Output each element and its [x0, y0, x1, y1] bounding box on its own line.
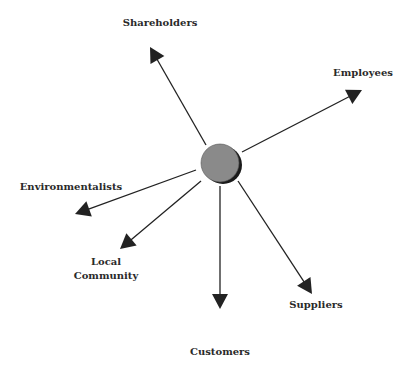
label-employees: Employees — [333, 66, 393, 80]
label-suppliers: Suppliers — [289, 298, 342, 312]
arrow-shaft — [242, 96, 350, 152]
label-local-community-line2: Community — [74, 269, 139, 283]
arrow-local-community — [120, 181, 201, 249]
arrow-shaft — [156, 58, 206, 145]
arrow-employees — [242, 90, 362, 152]
arrow-shaft — [238, 181, 305, 283]
label-shareholders: Shareholders — [123, 16, 198, 30]
arrowhead-icon — [120, 233, 137, 249]
arrow-customers — [212, 186, 228, 309]
arrow-suppliers — [238, 181, 312, 294]
label-environmentalists: Environmentalists — [20, 180, 123, 194]
arrowhead-icon — [212, 294, 228, 309]
label-customers: Customers — [190, 345, 250, 359]
hub-circle — [201, 144, 239, 182]
arrowhead-icon — [150, 47, 164, 64]
arrowhead-icon — [297, 277, 312, 294]
label-local-community-line1: Local — [91, 255, 121, 269]
arrow-shareholders — [150, 47, 206, 145]
